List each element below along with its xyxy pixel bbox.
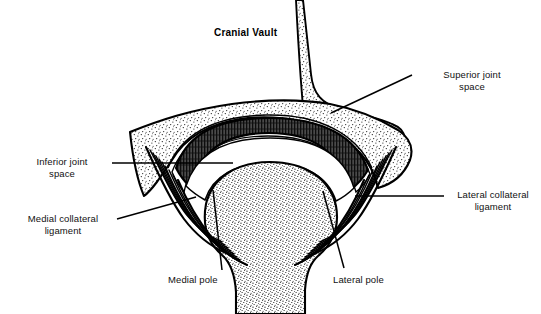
label-lateral-pole: Lateral pole bbox=[333, 274, 384, 286]
label-lateral-collateral-ligament: Lateral collateral ligament bbox=[446, 189, 540, 212]
mandibular-condyle bbox=[205, 162, 337, 314]
anatomical-figure: Cranial Vault Superior joint space Later… bbox=[0, 0, 541, 314]
figure-title: Cranial Vault bbox=[214, 27, 277, 38]
label-superior-joint-space: Superior joint space bbox=[417, 69, 527, 92]
label-medial-pole: Medial pole bbox=[168, 274, 218, 286]
leader-superior-joint-space bbox=[331, 75, 412, 113]
label-inferior-joint-space: Inferior joint space bbox=[14, 156, 110, 179]
label-medial-collateral-ligament: Medial collateral ligament bbox=[12, 213, 114, 236]
